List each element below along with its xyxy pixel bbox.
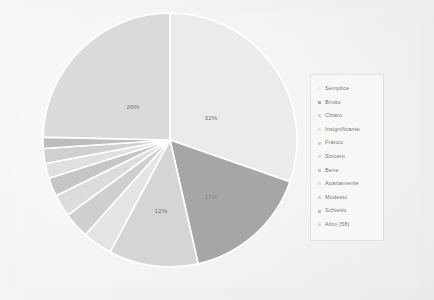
legend-item[interactable]: Modesto [316, 191, 378, 205]
legend-swatch-icon [318, 87, 321, 90]
pie-slices [43, 13, 297, 267]
legend-item[interactable]: Insignificante [316, 123, 378, 137]
screenshot-page: 32%26%17%12% SempliceBruttoChiaroInsigni… [0, 0, 434, 300]
legend-item-label: Franco [325, 140, 343, 146]
legend-item-label: Apartamente [325, 181, 359, 187]
legend-item[interactable]: Chiaro [316, 109, 378, 123]
legend-item[interactable]: Semplice [316, 82, 378, 96]
legend-swatch-icon [318, 210, 321, 213]
pie-svg [41, 11, 299, 269]
pie-slice[interactable] [43, 13, 170, 140]
legend-item[interactable]: Altro (58) [316, 218, 378, 232]
pie-slice-value-label: 26% [127, 103, 140, 110]
legend-swatch-icon [318, 155, 321, 158]
legend-item-label: Schietto [325, 208, 346, 214]
legend-item-label: Brutto [325, 100, 341, 106]
legend-item-label: Altro (58) [325, 222, 350, 228]
legend-item[interactable]: Schietto [316, 204, 378, 218]
legend-swatch-icon [318, 182, 321, 185]
legend-item[interactable]: Bene [316, 164, 378, 178]
legend-swatch-icon [318, 114, 321, 117]
legend-swatch-icon [318, 128, 321, 131]
legend-item-label: Sincero [325, 154, 345, 160]
legend-swatch-icon [318, 101, 321, 104]
legend-swatch-icon [318, 169, 321, 172]
legend-item-label: Modesto [325, 195, 348, 201]
legend-item[interactable]: Apartamente [316, 177, 378, 191]
pie-slice-value-label: 17% [205, 193, 218, 200]
legend-item-label: Chiaro [325, 113, 342, 119]
legend-item[interactable]: Franco [316, 136, 378, 150]
legend-swatch-icon [318, 142, 321, 145]
legend-item-label: Bene [325, 168, 339, 174]
pie-slice-value-label: 12% [155, 207, 168, 214]
pie-chart: 32%26%17%12% SempliceBruttoChiaroInsigni… [0, 0, 434, 300]
legend-item-label: Semplice [325, 86, 349, 92]
legend-item[interactable]: Sincero [316, 150, 378, 164]
pie-slice-value-label: 32% [205, 114, 218, 121]
legend-swatch-icon [318, 196, 321, 199]
legend-item-label: Insignificante [325, 127, 360, 133]
legend-swatch-icon [318, 223, 321, 226]
chart-legend: SempliceBruttoChiaroInsignificanteFranco… [310, 74, 384, 241]
legend-item[interactable]: Brutto [316, 96, 378, 110]
